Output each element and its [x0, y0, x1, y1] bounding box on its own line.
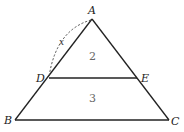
- vertex-label-B: B: [3, 114, 12, 127]
- region-label-upper: 2: [89, 50, 96, 63]
- region-label-lower: 3: [89, 92, 96, 105]
- triangle-diagram: A B C D E 2 3 x: [0, 0, 184, 132]
- arc-label-x: x: [59, 37, 64, 47]
- vertex-label-A: A: [87, 4, 96, 17]
- vertex-label-E: E: [140, 72, 149, 85]
- segment-AB: [15, 19, 92, 120]
- vertex-label-C: C: [171, 115, 180, 128]
- vertex-label-D: D: [35, 72, 45, 85]
- segment-AC: [92, 19, 169, 120]
